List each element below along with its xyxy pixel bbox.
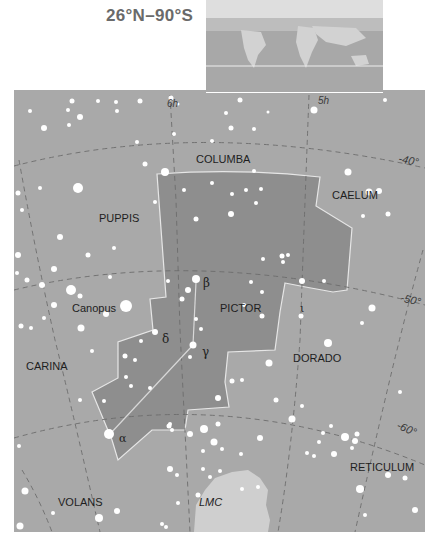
- label-columba: COLUMBA: [196, 153, 251, 165]
- label-pictor: PICTOR: [220, 302, 261, 314]
- label-lmc: LMC: [199, 496, 222, 508]
- star-label-alpha: α: [119, 432, 127, 445]
- label-puppis: PUPPIS: [99, 212, 139, 224]
- star-label-iota: ι: [300, 302, 304, 315]
- label-volans: VOLANS: [58, 496, 103, 508]
- ra-5h-label: 5h: [318, 95, 330, 106]
- label-reticulum: RETICULUM: [350, 461, 414, 473]
- ra-6h-label: 6h: [167, 98, 179, 109]
- label-dorado: DORADO: [293, 352, 342, 364]
- label-canopus: Canopus: [72, 302, 117, 314]
- label-caelum: CAELUM: [332, 189, 378, 201]
- star-label-gamma: γ: [202, 345, 209, 359]
- star-label-beta: β: [203, 276, 210, 290]
- label-carina: CARINA: [26, 360, 68, 372]
- star-label-delta: δ: [162, 332, 169, 346]
- star-chart: 6h 5h -40° -50° -60° COLUMBA CAELUM PUPP…: [0, 0, 439, 546]
